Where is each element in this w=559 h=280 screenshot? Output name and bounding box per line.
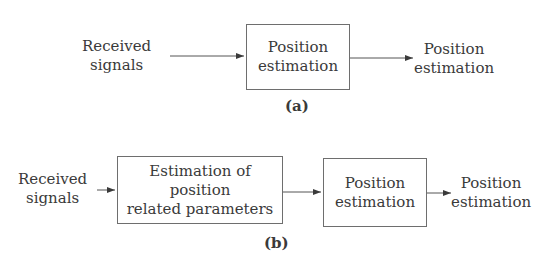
b-position-estimation-box: Position estimation	[323, 158, 427, 227]
b-input-label: Received signals	[18, 170, 87, 208]
a-output-label: Position estimation	[414, 40, 494, 78]
b-parameter-estimation-box: Estimation of position related parameter…	[117, 156, 283, 224]
b-box1-label: Estimation of position related parameter…	[118, 162, 282, 219]
a-position-estimation-box: Position estimation	[246, 24, 350, 90]
a-box-label: Position estimation	[258, 38, 338, 76]
b-caption: (b)	[264, 234, 289, 252]
a-caption: (a)	[285, 97, 309, 115]
a-input-label: Received signals	[82, 37, 151, 75]
b-output-label: Position estimation	[451, 174, 531, 212]
b-box2-label: Position estimation	[335, 174, 415, 212]
